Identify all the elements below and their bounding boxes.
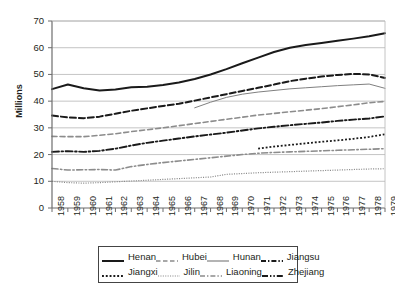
data-series-group <box>52 33 385 183</box>
legend-label-hubei: Hubei <box>182 252 207 262</box>
y-tick-label: 0 <box>20 202 44 213</box>
x-tick-label: 1977 <box>357 196 367 216</box>
legend-swatch-hunan-icon <box>207 252 229 262</box>
legend-label-jiangsu: Jiangsu <box>287 252 320 262</box>
x-tick-label: 1971 <box>262 196 272 216</box>
legend-label-jiangxi: Jiangxi <box>128 267 158 277</box>
y-tick-label: 40 <box>20 95 44 106</box>
legend-label-henan: Henan <box>128 252 156 262</box>
x-tick-label: 1959 <box>72 196 82 216</box>
legend-swatch-jilin-icon <box>158 267 180 277</box>
legend-label-hunan: Hunan <box>233 252 261 262</box>
y-tick-label: 10 <box>20 175 44 186</box>
x-tick-label: 1974 <box>310 196 320 216</box>
y-tick-label: 50 <box>20 68 44 79</box>
legend-item-jiangxi[interactable]: Jiangxi <box>102 267 158 277</box>
legend-item-jiangsu[interactable]: Jiangsu <box>261 252 320 262</box>
x-tick-label: 1962 <box>119 196 129 216</box>
x-tick-label: 1960 <box>88 196 98 216</box>
y-tick-label: 30 <box>20 122 44 133</box>
y-tick-label: 70 <box>20 15 44 26</box>
y-tick-label: 20 <box>20 149 44 160</box>
series-line-zhejiang <box>52 149 385 170</box>
series-line-jiangsu <box>52 116 385 152</box>
legend-label-liaoning: Liaoning <box>226 267 262 277</box>
legend-swatch-zhejiang-icon <box>262 267 284 277</box>
y-tick-label: 60 <box>20 42 44 53</box>
plot-area: Millions 010203040506070 195819591960196… <box>0 0 395 240</box>
legend-label-zhejiang: Zhejiang <box>288 267 324 277</box>
chart-screenshot: Millions 010203040506070 195819591960196… <box>0 0 395 295</box>
x-tick-label: 1972 <box>278 196 288 216</box>
legend-item-liaoning[interactable]: Liaoning <box>200 267 262 277</box>
legend-item-hunan[interactable]: Hunan <box>207 252 261 262</box>
legend-swatch-jiangsu-icon <box>261 252 283 262</box>
x-tick-label: 1970 <box>246 196 256 216</box>
legend-row: Jiangxi Jilin Liaoning Zhejiang <box>102 264 294 279</box>
x-tick-label: 1978 <box>373 196 383 216</box>
gridlines <box>52 21 385 208</box>
legend-item-jilin[interactable]: Jilin <box>158 267 200 277</box>
chart-legend: Henan Hubei Hunan Jiangsu Jiangxi J <box>98 246 298 283</box>
series-line-henan <box>52 33 385 90</box>
x-tick-label: 1979 <box>389 196 395 216</box>
x-tick-label: 1968 <box>215 196 225 216</box>
plot-frame <box>52 21 385 208</box>
x-tick-label: 1967 <box>199 196 209 216</box>
x-tick-label: 1963 <box>135 196 145 216</box>
series-line-liaoning <box>52 101 385 136</box>
legend-item-henan[interactable]: Henan <box>102 252 156 262</box>
legend-swatch-jiangxi-icon <box>102 267 124 277</box>
legend-item-hubei[interactable]: Hubei <box>156 252 207 262</box>
x-tick-label: 1964 <box>151 196 161 216</box>
x-tick-label: 1966 <box>183 196 193 216</box>
x-tick-label: 1969 <box>230 196 240 216</box>
x-tick-label: 1958 <box>56 196 66 216</box>
x-tick-label: 1961 <box>104 196 114 216</box>
legend-label-jilin: Jilin <box>184 267 200 277</box>
x-tick-label: 1973 <box>294 196 304 216</box>
legend-item-zhejiang[interactable]: Zhejiang <box>262 267 324 277</box>
x-tick-label: 1975 <box>326 196 336 216</box>
x-tick-label: 1976 <box>341 196 351 216</box>
legend-row: Henan Hubei Hunan Jiangsu <box>102 249 294 264</box>
legend-swatch-hubei-icon <box>156 252 178 262</box>
x-tick-label: 1965 <box>167 196 177 216</box>
legend-swatch-liaoning-icon <box>200 267 222 277</box>
series-line-jiangxi <box>258 134 385 148</box>
legend-swatch-henan-icon <box>102 252 124 262</box>
series-line-hubei <box>52 74 385 118</box>
